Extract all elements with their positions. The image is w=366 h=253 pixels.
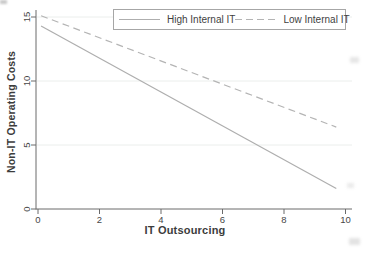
legend-label: High Internal IT bbox=[167, 14, 235, 25]
series-line-low-internal-it bbox=[41, 16, 336, 127]
y-tick-label: 5 bbox=[21, 142, 32, 147]
dashed-line-key-icon bbox=[235, 19, 276, 20]
solid-line-key-icon bbox=[119, 19, 160, 20]
figure: 0510150246810 High Internal IT Low Inter… bbox=[0, 0, 366, 253]
legend-entry-low-internal-it: Low Internal IT bbox=[235, 14, 349, 25]
legend-label: Low Internal IT bbox=[283, 14, 349, 25]
series-line-high-internal-it bbox=[41, 26, 336, 189]
y-axis-title: Non-IT Operating Costs bbox=[5, 51, 17, 173]
y-tick-label: 0 bbox=[21, 206, 32, 211]
legend-entry-high-internal-it: High Internal IT bbox=[119, 14, 235, 25]
y-tick-label: 15 bbox=[21, 12, 32, 23]
y-tick-label: 10 bbox=[21, 76, 32, 87]
chart-canvas: 0510150246810 bbox=[0, 0, 366, 253]
legend: High Internal IT Low Internal IT bbox=[113, 9, 346, 30]
x-axis-title: IT Outsourcing bbox=[20, 224, 350, 236]
